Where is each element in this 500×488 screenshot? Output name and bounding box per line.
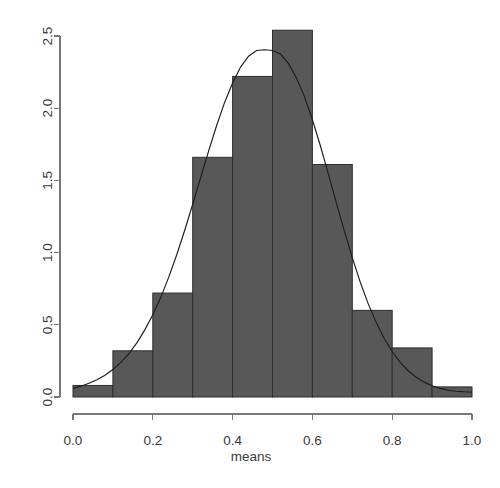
x-axis-title: means xyxy=(231,449,272,464)
histogram-bar xyxy=(352,310,392,397)
plot-canvas: 0.00.51.01.52.02.5 0.00.20.40.60.81.0 me… xyxy=(0,0,500,488)
x-tick-label: 0.2 xyxy=(143,433,162,448)
x-tick-label: 0.6 xyxy=(303,433,322,448)
y-tick-label: 2.0 xyxy=(40,99,55,118)
x-tick-label: 0.4 xyxy=(223,433,242,448)
y-tick-label: 0.5 xyxy=(40,315,55,334)
x-tick-label: 0.8 xyxy=(383,433,402,448)
x-tick-label: 0.0 xyxy=(64,433,83,448)
histogram-bar xyxy=(312,165,352,397)
histogram-bar xyxy=(153,293,193,397)
histogram-bar xyxy=(392,348,432,397)
x-tick-label: 1.0 xyxy=(463,433,482,448)
histogram-bar xyxy=(193,157,233,397)
histogram-bar xyxy=(233,76,273,397)
y-tick-label: 1.0 xyxy=(40,243,55,262)
histogram-plot: 0.00.51.01.52.02.5 0.00.20.40.60.81.0 me… xyxy=(0,0,500,488)
histogram-bar xyxy=(273,30,313,397)
histogram-bar xyxy=(113,351,153,397)
y-tick-label: 2.5 xyxy=(40,27,55,46)
y-tick-label: 0.0 xyxy=(40,388,55,407)
y-tick-label: 1.5 xyxy=(40,171,55,190)
